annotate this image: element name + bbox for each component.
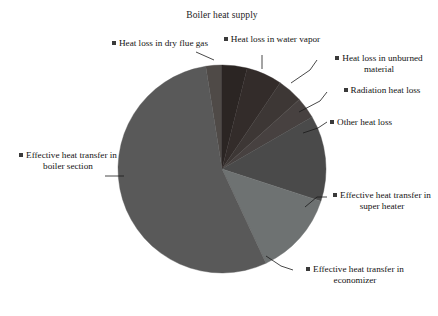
pie-label-economizer: Effective heat transfer in economizer xyxy=(295,264,415,286)
legend-swatch-icon xyxy=(333,193,337,197)
legend-swatch-icon xyxy=(112,41,116,45)
pie-slice-group xyxy=(118,65,326,273)
pie-label-boiler-section: Effective heat transfer in boiler sectio… xyxy=(8,150,128,172)
pie-label-water-vapor: Heat loss in water vapor xyxy=(222,34,322,45)
legend-swatch-icon xyxy=(306,267,310,271)
pie-label-text: Effective heat transfer in super heater xyxy=(340,190,431,211)
pie-label-text: Effective heat transfer in economizer xyxy=(313,264,404,285)
pie-label-radiation-heat-loss: Radiation heat loss xyxy=(330,85,434,96)
legend-swatch-icon xyxy=(224,37,228,41)
pie-label-text: Heat loss in dry flue gas xyxy=(119,38,208,48)
leader-line-unburned xyxy=(291,60,317,83)
pie-label-text: Radiation heat loss xyxy=(351,85,421,95)
pie-label-text: Effective heat transfer in boiler sectio… xyxy=(26,150,117,171)
legend-swatch-icon xyxy=(335,56,339,60)
pie-chart-figure: Boiler heat supply Heat loss in dry flue… xyxy=(0,0,438,316)
pie-label-other-heat-loss: Other heat loss xyxy=(330,117,434,128)
pie-label-dry-flue-gas: Heat loss in dry flue gas xyxy=(102,38,218,49)
legend-swatch-icon xyxy=(344,88,348,92)
pie-label-text: Other heat loss xyxy=(337,117,392,127)
pie-label-text: Heat loss in water vapor xyxy=(231,34,320,44)
pie-label-unburned-material: Heat loss in unburned material xyxy=(320,53,438,75)
legend-swatch-icon xyxy=(19,153,23,157)
pie-label-super-heater: Effective heat transfer in super heater xyxy=(330,190,434,212)
leader-line-dry-flue-gas xyxy=(196,52,214,60)
legend-swatch-icon xyxy=(330,120,334,124)
pie-label-text: Heat loss in unburned material xyxy=(342,53,422,74)
